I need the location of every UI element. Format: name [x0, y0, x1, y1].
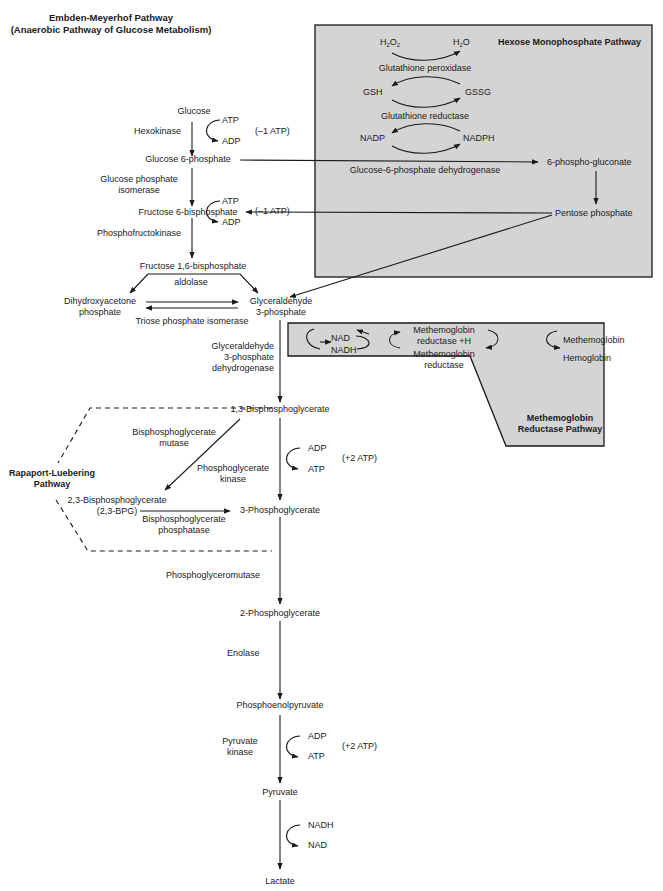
metabolite-g3p-line2: 3-phosphate	[256, 307, 306, 318]
enzyme-g6pd: Glucose-6-phosphate dehydrogenase	[350, 165, 501, 176]
enzyme-phosphoglyceromutase: Phosphoglyceromutase	[166, 570, 260, 581]
cofactor-pgk-adp: ADP	[308, 443, 327, 454]
metabolite-glucose-6-phosphate: Glucose 6-phosphate	[145, 154, 231, 165]
enzyme-bisphosphoglycerate-mutase: Bisphosphoglycerate	[132, 427, 216, 438]
methb-reductase: Methemoglobin	[413, 349, 475, 360]
metabolite-g3p: Glyceraldehyde	[250, 296, 313, 307]
arrow-to-dhap	[130, 274, 148, 293]
enzyme-bisphosphoglycerate-mutase-line2: mutase	[159, 438, 189, 449]
hmp-gsh: GSH	[363, 87, 383, 98]
methemoglobin-pathway-title: Methemoglobin	[527, 413, 594, 424]
enzyme-aldolase: aldolase	[174, 277, 208, 288]
enzyme-glucose-phosphate-isomerase-line2: isomerase	[118, 185, 160, 196]
cofactor-hk-atp: ATP	[222, 115, 239, 126]
cofactor-pfk-atp: ATP	[222, 196, 239, 207]
methb-reductase-h: Methemoglobin	[413, 325, 475, 336]
enzyme-phosphofructokinase: Phosphofructokinase	[97, 228, 181, 239]
hmp-gssg: GSSG	[465, 87, 491, 98]
metabolite-dhap-line2: phosphate	[79, 307, 121, 318]
enzyme-hexokinase: Hexokinase	[134, 126, 181, 137]
rapaport-luebering-title-line2: Pathway	[34, 479, 71, 490]
hmp-nadph: NADPH	[463, 133, 495, 144]
enzyme-pyruvate-kinase-line2: kinase	[227, 747, 253, 758]
hmp-box	[315, 25, 652, 277]
metabolite-2-phosphoglycerate: 2-Phosphoglycerate	[240, 608, 320, 619]
enzyme-gapdh: Glyceraldehyde	[211, 341, 274, 352]
methb-reductase-line2: reductase	[424, 360, 464, 371]
hmp-h2o: H2O	[453, 37, 470, 48]
metabolite-3-phosphoglycerate: 3-Phosphoglycerate	[240, 505, 320, 516]
net-atp-hexokinase: (–1 ATP)	[255, 126, 290, 137]
metabolite-2-3-bpg: 2,3-Bisphosphoglycerate	[67, 495, 166, 506]
metabolite-fructose-1-6-bisphosphate: Fructose 1,6-bisphosphate	[140, 261, 247, 272]
cofactor-ldh-nadh: NADH	[308, 820, 334, 831]
enzyme-gapdh-line2: 3-phosphate	[224, 352, 274, 363]
enzyme-bisphosphoglycerate-phosphatase-line2: phosphatase	[158, 525, 210, 536]
enzyme-bisphosphoglycerate-phosphatase: Bisphosphoglycerate	[142, 514, 226, 525]
net-atp-pfk: (–1 ATP)	[255, 206, 290, 217]
enzyme-glutathione-reductase: Glutathione reductase	[381, 111, 469, 122]
methb-reductase-h-line2: reductase +H	[417, 336, 471, 347]
enzyme-phosphoglycerate-kinase: Phosphoglycerate	[197, 463, 269, 474]
cofactor-pgk-atp: ATP	[308, 464, 325, 475]
diagram-subtitle: (Anaerobic Pathway of Glucose Metabolism…	[11, 24, 212, 36]
rapaport-luebering-title: Rapaport-Luebering	[9, 468, 95, 479]
enzyme-triose-phosphate-isomerase: Triose phosphate isomerase	[135, 316, 248, 327]
cofactor-ldh-nad: NAD	[308, 840, 327, 851]
metabolite-lactate: Lactate	[265, 876, 295, 887]
hmp-h2o2: H2O2	[380, 37, 400, 48]
enzyme-glucose-phosphate-isomerase: Glucose phosphate	[100, 174, 178, 185]
hmp-nadp: NADP	[360, 133, 385, 144]
cofactor-hk-adp: ADP	[222, 136, 241, 147]
enzyme-enolase: Enolase	[227, 648, 260, 659]
enzyme-glutathione-peroxidase: Glutathione peroxidase	[379, 63, 472, 74]
net-atp-pk: (+2 ATP)	[342, 741, 377, 752]
methb-nadh: NADH	[331, 345, 357, 356]
glycolysis-diagram: Embden-Meyerhof Pathway (Anaerobic Pathw…	[0, 0, 663, 891]
metabolite-pentose-phosphate: Pentose phosphate	[555, 208, 633, 219]
enzyme-gapdh-line3: dehydrogenase	[212, 363, 274, 374]
cofactor-pfk-adp: ADP	[222, 217, 241, 228]
metabolite-glucose: Glucose	[177, 106, 210, 117]
cofactor-pk-adp: ADP	[308, 731, 327, 742]
methb-nad: NAD	[331, 333, 350, 344]
metabolite-dhap: Dihydroxyacetone	[64, 296, 136, 307]
metabolite-6-phospho-gluconate: 6-phospho-gluconate	[547, 157, 632, 168]
metabolite-methemoglobin: Methemoglobin	[563, 335, 625, 346]
metabolite-hemoglobin: Hemoglobin	[563, 353, 611, 364]
methemoglobin-pathway-title-line2: Reductase Pathway	[518, 424, 603, 435]
metabolite-phosphoenolpyruvate: Phosphoenolpyruvate	[236, 700, 323, 711]
metabolite-1-3-bisphosphoglycerate: 1,3-Bisphosphoglycerate	[230, 404, 329, 415]
metabolite-2-3-bpg-line2: (2,3-BPG)	[97, 506, 138, 517]
net-atp-pgk: (+2 ATP)	[342, 453, 377, 464]
enzyme-pyruvate-kinase: Pyruvate	[222, 736, 258, 747]
diagram-title: Embden-Meyerhof Pathway	[49, 12, 173, 24]
hmp-title: Hexose Monophosphate Pathway	[498, 37, 641, 48]
metabolite-pyruvate: Pyruvate	[262, 787, 298, 798]
cofactor-pk-atp: ATP	[308, 751, 325, 762]
enzyme-phosphoglycerate-kinase-line2: kinase	[220, 474, 246, 485]
pathway-connectors	[0, 0, 663, 891]
